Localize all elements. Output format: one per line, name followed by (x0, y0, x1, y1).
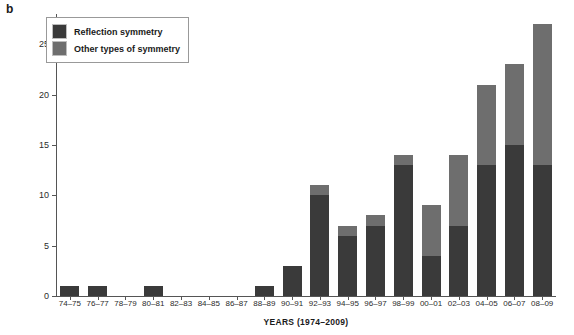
stacked-bar[interactable] (144, 286, 163, 296)
legend: Reflection symmetry Other types of symme… (46, 17, 189, 63)
bar-segment-reflection-symmetry[interactable] (533, 165, 552, 296)
stacked-bar[interactable] (283, 266, 302, 296)
x-axis-tick-label: 82–83 (167, 299, 195, 308)
bar-segment-reflection-symmetry[interactable] (338, 236, 357, 296)
bar-segment-other-symmetry[interactable] (338, 226, 357, 236)
bar-segment-reflection-symmetry[interactable] (505, 145, 524, 296)
bar-segment-other-symmetry[interactable] (533, 24, 552, 165)
bar-segment-reflection-symmetry[interactable] (422, 256, 441, 296)
x-axis-tick-label: 96–97 (362, 299, 390, 308)
legend-item: Other types of symmetry (52, 41, 180, 56)
bar-slot (334, 14, 362, 296)
x-axis-tick-label: 92–93 (306, 299, 334, 308)
stacked-bar[interactable] (422, 205, 441, 296)
bar-slot (445, 14, 473, 296)
bar-segment-other-symmetry[interactable] (505, 64, 524, 145)
bar-segment-other-symmetry[interactable] (366, 215, 385, 225)
bar-segment-reflection-symmetry[interactable] (449, 226, 468, 297)
legend-item: Reflection symmetry (52, 24, 180, 39)
bar-segment-reflection-symmetry[interactable] (144, 286, 163, 296)
x-axis-tick-label: 74–75 (56, 299, 84, 308)
x-axis-tick-label: 04–05 (473, 299, 501, 308)
bar-slot (250, 14, 278, 296)
bar-segment-other-symmetry[interactable] (310, 185, 329, 195)
bar-segment-reflection-symmetry[interactable] (255, 286, 274, 296)
bar-segment-reflection-symmetry[interactable] (88, 286, 107, 296)
bar-slot (195, 14, 223, 296)
panel-label: b (6, 2, 13, 16)
x-axis-tick-label: 94–95 (334, 299, 362, 308)
stacked-bar[interactable] (338, 226, 357, 296)
x-axis-tick-label: 08–09 (528, 299, 556, 308)
dark-gray-swatch-icon (52, 24, 67, 39)
x-axis-tick-label: 80–81 (139, 299, 167, 308)
bar-slot (389, 14, 417, 296)
legend-item-label: Other types of symmetry (74, 44, 180, 54)
stacked-bar[interactable] (366, 215, 385, 296)
stacked-bar[interactable] (449, 155, 468, 296)
bar-segment-reflection-symmetry[interactable] (366, 226, 385, 297)
x-axis-line (56, 296, 556, 297)
legend-item-label: Reflection symmetry (74, 27, 163, 37)
medium-gray-swatch-icon (52, 41, 67, 56)
x-axis-tick-labels: 74–7576–7778–7980–8182–8384–8586–8788–89… (56, 299, 556, 308)
bar-slot (501, 14, 529, 296)
stacked-bar[interactable] (310, 185, 329, 296)
x-axis-title: YEARS (1974–2009) (56, 317, 556, 327)
figure-panel: b NUMBER OF PUBLICATIONS 0510152025 74–7… (0, 0, 574, 335)
x-axis-tick-label: 78–79 (112, 299, 140, 308)
x-axis-tick-label: 98–99 (389, 299, 417, 308)
x-axis-tick-label: 88–89 (250, 299, 278, 308)
stacked-bar[interactable] (477, 85, 496, 296)
stacked-bar[interactable] (533, 24, 552, 296)
bar-segment-reflection-symmetry[interactable] (60, 286, 79, 296)
bar-segment-other-symmetry[interactable] (449, 155, 468, 226)
bar-segment-reflection-symmetry[interactable] (310, 195, 329, 296)
bar-segment-reflection-symmetry[interactable] (283, 266, 302, 296)
bar-segment-reflection-symmetry[interactable] (477, 165, 496, 296)
stacked-bar[interactable] (60, 286, 79, 296)
bar-segment-other-symmetry[interactable] (422, 205, 441, 255)
bar-segment-reflection-symmetry[interactable] (394, 165, 413, 296)
x-axis-tick-label: 00–01 (417, 299, 445, 308)
stacked-bar[interactable] (505, 64, 524, 296)
bar-slot (473, 14, 501, 296)
x-axis-tick-label: 86–87 (223, 299, 251, 308)
bar-slot (306, 14, 334, 296)
bar-slot (278, 14, 306, 296)
x-axis-tick-label: 76–77 (84, 299, 112, 308)
bar-slot (362, 14, 390, 296)
bar-slot (223, 14, 251, 296)
bar-segment-other-symmetry[interactable] (477, 85, 496, 166)
stacked-bar[interactable] (394, 155, 413, 296)
y-axis-tick-mark (52, 296, 56, 297)
stacked-bar[interactable] (255, 286, 274, 296)
x-axis-tick-label: 06–07 (501, 299, 529, 308)
bar-segment-other-symmetry[interactable] (394, 155, 413, 165)
stacked-bar[interactable] (88, 286, 107, 296)
bar-slot (528, 14, 556, 296)
x-axis-tick-label: 02–03 (445, 299, 473, 308)
x-axis-tick-label: 84–85 (195, 299, 223, 308)
x-axis-tick-label: 90–91 (278, 299, 306, 308)
bar-slot (417, 14, 445, 296)
